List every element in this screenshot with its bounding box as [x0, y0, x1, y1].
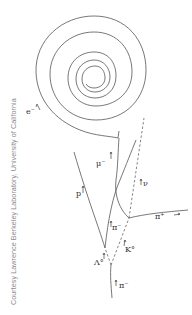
incoming-pion-track — [111, 265, 112, 298]
direction-arrows — [36, 104, 180, 286]
label-neutrino: ν — [143, 179, 148, 188]
muon-track — [116, 138, 129, 218]
electron-spiral-track — [36, 16, 146, 138]
label-incoming-pion: π⁻ — [119, 281, 128, 290]
label-electron: e⁻ — [26, 107, 35, 116]
label-proton: p — [76, 189, 81, 198]
label-lambda0: Λ° — [93, 258, 104, 267]
label-pion-plus: π⁺ — [155, 212, 164, 221]
neutrino-track — [129, 118, 144, 218]
label-kaon0: K° — [125, 245, 135, 254]
label-pion-minus: π⁻ — [112, 223, 121, 232]
lambda-track — [105, 248, 111, 265]
particle-track-diagram: e⁻ μ⁻ p ν π⁻ π⁺ K° Λ° π⁻ — [0, 0, 192, 315]
label-muon: μ⁻ — [96, 159, 105, 168]
